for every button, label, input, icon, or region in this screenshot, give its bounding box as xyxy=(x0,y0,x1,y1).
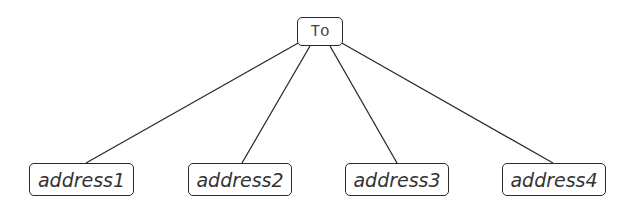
root-node-label: To xyxy=(310,23,329,41)
leaf-node-address4: address4 xyxy=(502,163,606,196)
edge-to-address1 xyxy=(86,42,300,163)
leaf-node-address3: address3 xyxy=(345,163,449,196)
leaf-node-label: address3 xyxy=(353,169,440,191)
edge-to-address3 xyxy=(330,46,397,163)
leaf-node-label: address4 xyxy=(510,169,597,191)
edge-to-address4 xyxy=(340,42,553,163)
edge-to-address2 xyxy=(242,46,310,163)
leaf-node-address2: address2 xyxy=(188,163,292,196)
tree-diagram: To address1 address2 address3 address4 xyxy=(0,0,635,211)
leaf-node-address1: address1 xyxy=(29,163,134,196)
root-node-to: To xyxy=(297,17,343,46)
leaf-node-label: address1 xyxy=(38,169,125,191)
leaf-node-label: address2 xyxy=(196,169,283,191)
